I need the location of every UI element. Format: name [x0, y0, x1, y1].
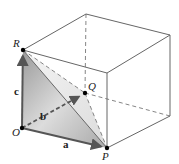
point-q — [83, 91, 87, 95]
label-vector-a: a — [63, 139, 69, 150]
label-q: Q — [88, 81, 96, 92]
point-o — [20, 126, 24, 130]
label-r: R — [13, 38, 20, 49]
label-vector-b: b — [40, 111, 46, 122]
vector-c — [22, 56, 23, 128]
label-p: P — [102, 151, 109, 162]
label-vector-c: c — [14, 86, 19, 97]
label-o: O — [12, 127, 20, 138]
point-r — [21, 48, 25, 52]
